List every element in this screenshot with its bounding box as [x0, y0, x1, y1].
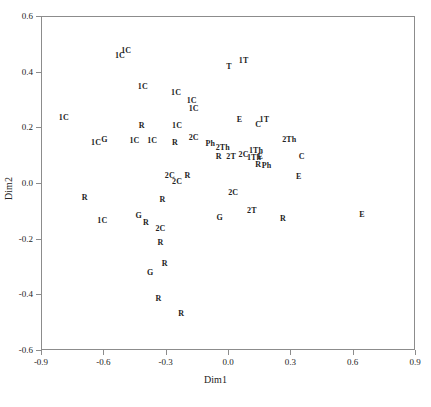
y-tick-mark: [36, 127, 41, 128]
x-tick-label: -0.6: [96, 357, 110, 367]
data-point-label: E: [359, 211, 364, 219]
data-point-label: 1C: [147, 137, 157, 145]
y-tick-label: 0.6: [22, 11, 33, 21]
data-point-label: 1C: [138, 83, 148, 91]
x-tick-label: 0.3: [285, 357, 296, 367]
data-point-label: R: [158, 239, 164, 247]
y-tick-mark: [36, 350, 41, 351]
data-point-label: E: [237, 116, 242, 124]
y-tick-mark: [36, 72, 41, 73]
data-point-label: R: [172, 139, 178, 147]
data-point-label: R: [82, 194, 88, 202]
data-point-label: 2Th: [282, 136, 296, 144]
data-point-label: E: [296, 173, 301, 181]
data-point-label: R: [160, 196, 166, 204]
data-point-label: 2C: [155, 225, 165, 233]
x-tick-mark: [103, 350, 104, 355]
data-point-label: R: [139, 122, 145, 130]
data-point-label: 1C: [59, 114, 69, 122]
data-point-label: 2C: [189, 134, 199, 142]
data-point-label: Ph: [206, 140, 216, 148]
data-point-label: 1C: [91, 139, 101, 147]
y-tick-label: 0.0: [22, 178, 33, 188]
x-axis-title: Dim1: [0, 374, 431, 385]
y-tick-label: -0.4: [19, 289, 33, 299]
y-tick-mark: [36, 239, 41, 240]
data-point-label: 1C: [97, 217, 107, 225]
data-point-label: Ph: [262, 162, 272, 170]
data-point-label: R: [255, 161, 261, 169]
y-axis-title: Dim2: [3, 159, 14, 219]
data-point-label: 2C: [172, 178, 182, 186]
data-point-label: R: [216, 153, 222, 161]
data-point-label: 1C: [130, 137, 140, 145]
x-tick-mark: [290, 350, 291, 355]
data-point-label: 1T: [260, 116, 270, 124]
y-tick-mark: [36, 294, 41, 295]
y-tick-mark: [36, 183, 41, 184]
data-point-label: 1C: [121, 47, 131, 55]
data-point-label: G: [101, 136, 107, 144]
y-tick-mark: [36, 16, 41, 17]
data-point-label: 1C: [189, 105, 199, 113]
x-tick-mark: [415, 350, 416, 355]
x-tick-mark: [353, 350, 354, 355]
data-point-label: 1T: [239, 57, 249, 65]
data-point-label: R: [143, 219, 149, 227]
data-point-label: 2C: [228, 189, 238, 197]
data-point-label: R: [155, 295, 161, 303]
x-tick-label: -0.3: [159, 357, 173, 367]
y-tick-label: -0.6: [19, 345, 33, 355]
x-tick-mark: [41, 350, 42, 355]
data-point-label: R: [162, 260, 168, 268]
x-tick-label: -0.9: [34, 357, 48, 367]
data-point-label: T: [226, 63, 231, 71]
x-tick-label: 0.9: [409, 357, 420, 367]
x-tick-mark: [166, 350, 167, 355]
y-tick-label: 0.4: [22, 67, 33, 77]
y-tick-label: -0.2: [19, 234, 33, 244]
data-point-label: R: [185, 172, 191, 180]
data-point-label: G: [147, 269, 153, 277]
data-point-label: 2T: [247, 207, 257, 215]
x-tick-label: 0.0: [222, 357, 233, 367]
scatter-plot-figure: 1C1C1C1C1C1C1CR1CEC1T1TT1CG1C1CR2CPh2Th2…: [0, 0, 431, 407]
data-point-label: 1C: [172, 122, 182, 130]
data-point-label: 1C: [171, 89, 181, 97]
data-point-label: R: [178, 310, 184, 318]
data-point-label: R: [280, 215, 286, 223]
data-point-label: G: [217, 214, 223, 222]
data-point-label: G: [135, 212, 141, 220]
data-point-label: C: [299, 153, 305, 161]
x-tick-label: 0.6: [347, 357, 358, 367]
x-tick-mark: [228, 350, 229, 355]
y-tick-label: 0.2: [22, 122, 33, 132]
data-point-label: 2T: [226, 153, 236, 161]
